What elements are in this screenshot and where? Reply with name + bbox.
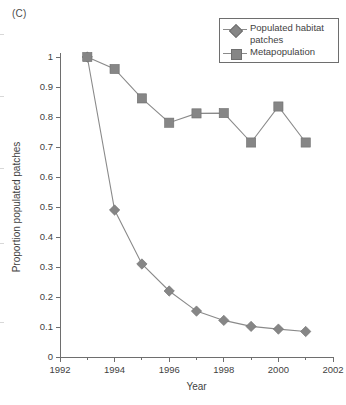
- data-point-0-5: [219, 315, 229, 325]
- x-tick-label-2: 1996: [159, 364, 180, 375]
- x-tick-label-3: 1998: [213, 364, 234, 375]
- data-point-1-6: [247, 138, 256, 147]
- legend-label-1: Metapopulation: [250, 46, 318, 58]
- y-tick-label-9: 0.9: [40, 81, 53, 92]
- legend-entry-populated-habitat-patches: Populated habitat patches: [220, 22, 338, 45]
- data-point-1-8: [301, 138, 310, 147]
- data-point-0-6: [246, 321, 256, 331]
- figure-panel: (C) 00.10.20.30.40.50.60.70.80.911992199…: [0, 0, 346, 405]
- y-axis-title: Proportion populated patches: [11, 142, 22, 273]
- y-tick-label-6: 0.6: [40, 171, 53, 182]
- y-tick-label-7: 0.7: [40, 141, 53, 152]
- y-tick-label-8: 0.8: [40, 111, 53, 122]
- x-tick-label-1: 1994: [104, 364, 125, 375]
- data-point-1-2: [137, 94, 146, 103]
- y-tick-label-4: 0.4: [40, 231, 53, 242]
- y-tick-label-10: 1: [48, 51, 53, 62]
- x-tick-label-0: 1992: [49, 364, 70, 375]
- data-point-0-4: [191, 306, 201, 316]
- data-point-1-5: [219, 109, 228, 118]
- x-tick-label-4: 2000: [268, 364, 289, 375]
- square-marker-icon: [220, 47, 250, 60]
- diamond-marker-icon: [220, 23, 250, 36]
- data-point-0-1: [109, 205, 119, 215]
- data-point-1-3: [165, 118, 174, 127]
- data-point-1-1: [110, 64, 119, 73]
- data-point-1-4: [192, 109, 201, 118]
- data-point-1-7: [274, 102, 283, 111]
- series-line-1: [87, 57, 305, 143]
- legend-entry-metapopulation: Metapopulation: [220, 46, 338, 60]
- y-tick-label-2: 0.2: [40, 291, 53, 302]
- y-tick-label-3: 0.3: [40, 261, 53, 272]
- y-tick-label-0: 0: [48, 351, 53, 362]
- data-point-0-8: [301, 326, 311, 336]
- y-tick-label-5: 0.5: [40, 201, 53, 212]
- legend-label-0: Populated habitat patches: [250, 22, 338, 45]
- x-tick-label-5: 2002: [322, 364, 343, 375]
- y-tick-label-1: 0.1: [40, 321, 53, 332]
- x-axis-title: Year: [186, 381, 207, 392]
- data-point-0-7: [273, 324, 283, 334]
- series-line-0: [87, 57, 305, 332]
- chart-legend: Populated habitat patches Metapopulation: [219, 18, 339, 63]
- data-point-1-0: [83, 52, 92, 61]
